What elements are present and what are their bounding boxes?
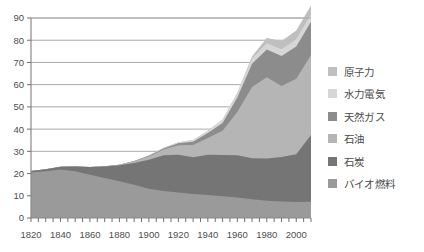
legend-swatch-icon [328,67,337,76]
legend-item: 天然ガス [328,105,424,128]
legend-item-label: 水力電気 [344,86,385,101]
x-tick-label: 1960 [227,229,248,240]
x-tick-label: 1840 [50,229,71,240]
legend-swatch-icon [328,112,337,121]
y-tick-label: 60 [13,79,24,90]
legend-item: 石炭 [328,150,424,173]
x-tick-label: 1920 [168,229,189,240]
x-tick-label: 1900 [138,229,159,240]
y-tick-label: 0 [19,212,24,223]
x-tick-label: 1860 [79,229,100,240]
legend-item-label: バイオ燃料 [344,176,395,191]
chart-legend: 原子力水力電気天然ガス石油石炭バイオ燃料 [328,60,424,195]
y-tick-label: 40 [13,124,24,135]
legend-item: バイオ燃料 [328,173,424,196]
stacked-area-chart: 0102030405060708090 18201840186018801900… [0,0,424,252]
y-tick-label: 70 [13,57,24,68]
x-tick-label: 1980 [256,229,277,240]
y-tick-label: 10 [13,190,24,201]
legend-item: 水力電気 [328,83,424,106]
legend-swatch-icon [328,134,337,143]
y-axis-tick-labels: 0102030405060708090 [13,12,24,223]
legend-item-label: 天然ガス [344,109,385,124]
y-tick-label: 20 [13,168,24,179]
legend-swatch-icon [328,179,337,188]
y-tick-label: 50 [13,101,24,112]
legend-item-label: 石油 [344,131,364,146]
legend-item-label: 原子力 [344,64,375,79]
x-tick-label: 1820 [20,229,41,240]
legend-swatch-icon [328,157,337,166]
y-tick-label: 30 [13,146,24,157]
x-axis-tick-labels: 1820184018601880190019201940196019802000 [20,229,306,240]
area-series-layer [31,6,311,218]
legend-item: 原子力 [328,60,424,83]
legend-item: 石油 [328,128,424,151]
y-tick-label: 80 [13,35,24,46]
legend-swatch-icon [328,89,337,98]
x-tick-label: 1940 [197,229,218,240]
y-tick-label: 90 [13,12,24,23]
x-tick-label: 1880 [109,229,130,240]
x-tick-label: 2000 [286,229,307,240]
legend-item-label: 石炭 [344,154,364,169]
